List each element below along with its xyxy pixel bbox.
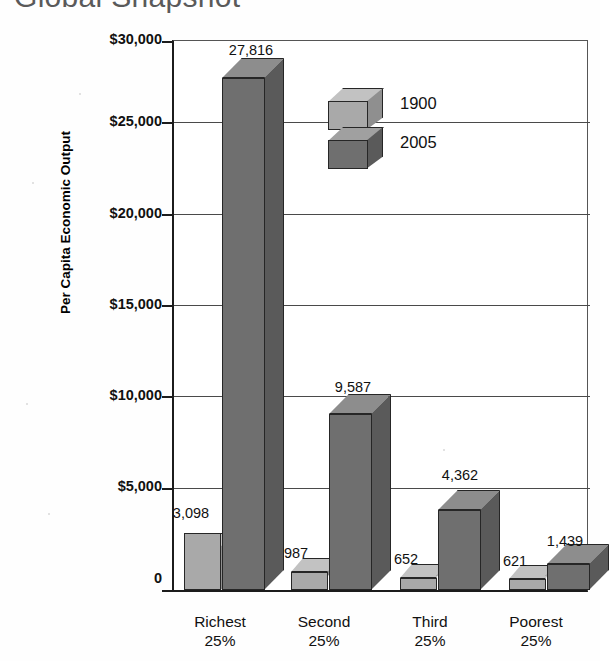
data-label-poorest-1900: 621 (487, 553, 543, 569)
y-tick-label-5000: $5,000 (32, 478, 162, 494)
x-axis-label-poorest: Poorest 25% (484, 612, 588, 650)
x-label-line2: 25% (378, 631, 482, 650)
x-axis-label-third: Third 25% (378, 612, 482, 650)
scan-speck (443, 449, 445, 451)
y-tick-label-15000: $15,000 (32, 296, 162, 312)
x-label-line2: 25% (272, 631, 376, 650)
tickmark-15000 (162, 305, 173, 307)
data-label-third-2005: 4,362 (424, 467, 496, 483)
data-label-poorest-2005: 1,439 (532, 533, 598, 549)
legend-swatch-2005 (328, 127, 392, 169)
tickmark-30000 (162, 41, 173, 43)
tickmark-0 (162, 590, 173, 592)
x-label-line1: Third (412, 613, 447, 630)
bar-front-face (509, 579, 546, 590)
chart-title: Global Snapshot (14, 0, 240, 14)
x-label-line1: Richest (194, 613, 246, 630)
y-tick-label-30000: $30,000 (32, 31, 162, 47)
legend: 1900 2005 (328, 88, 478, 170)
x-label-line2: 25% (168, 631, 272, 650)
x-label-line1: Poorest (509, 613, 562, 630)
tickmark-25000 (162, 122, 173, 124)
bar-side-face (264, 58, 284, 590)
x-label-line2: 25% (484, 631, 588, 650)
scan-speck (48, 513, 50, 515)
data-label-richest-1900: 3,098 (158, 505, 224, 521)
data-label-second-2005: 9,587 (317, 379, 389, 395)
x-axis-label-second: Second 25% (272, 612, 376, 650)
data-label-second-1900: 987 (268, 545, 324, 561)
y-tick-label-20000: $20,000 (32, 205, 162, 221)
data-label-third-1900: 652 (378, 551, 434, 567)
y-axis-title: Per Capita Economic Output (58, 123, 73, 323)
scan-speck (32, 182, 34, 184)
legend-cube-front-face (328, 140, 368, 169)
data-label-richest-2005: 27,816 (212, 42, 290, 58)
y-tick-label-10000: $10,000 (32, 387, 162, 403)
bar-front-face (184, 533, 221, 590)
legend-label-1900: 1900 (400, 94, 437, 113)
scan-speck (79, 93, 81, 95)
bar-front-face (547, 564, 590, 590)
bar-front-face (291, 572, 328, 590)
tickmark-20000 (162, 214, 173, 216)
tickmark-10000 (162, 396, 173, 398)
x-label-line1: Second (298, 613, 351, 630)
tickmark-5000 (162, 488, 173, 490)
scan-speck (26, 403, 28, 405)
bar-front-face (329, 414, 372, 590)
y-tick-label-25000: $25,000 (32, 113, 162, 129)
legend-cube-front-face (328, 101, 368, 130)
x-axis-label-richest: Richest 25% (168, 612, 272, 650)
legend-swatch-1900 (328, 88, 392, 130)
bar-poorest-2005[interactable] (547, 544, 613, 590)
bar-front-face (400, 578, 437, 590)
bar-richest-2005[interactable] (222, 58, 302, 590)
bar-front-face (222, 78, 265, 590)
legend-label-2005: 2005 (400, 133, 437, 152)
bar-front-face (438, 510, 481, 590)
y-tick-label-0: 0 (32, 570, 162, 586)
bar-third-2005[interactable] (438, 490, 518, 590)
